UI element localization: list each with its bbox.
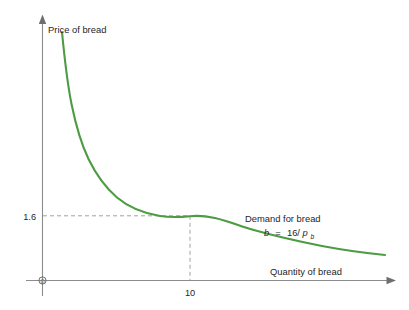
x-tick-label-10: 10 xyxy=(185,288,195,298)
equation-lhs-b: b xyxy=(264,227,269,238)
equation-denominator-p: p xyxy=(302,227,308,238)
legend-title-demand-for-bread: Demand for bread xyxy=(245,213,321,224)
axes-group xyxy=(26,15,396,297)
demand-curve-group xyxy=(62,32,385,255)
x-axis-arrowhead xyxy=(387,277,397,284)
y-tick-label-1-6: 1.6 xyxy=(23,212,36,222)
chart-canvas: Price of bread Quantity of bread 1.6 10 … xyxy=(0,0,409,310)
equation-subscript-b: b xyxy=(310,233,314,240)
demand-curve-path xyxy=(62,32,385,255)
y-axis-title: Price of bread xyxy=(48,24,106,35)
labels-group: Price of bread Quantity of bread 1.6 10 … xyxy=(23,24,342,298)
y-axis-arrowhead xyxy=(39,15,46,25)
x-axis-title: Quantity of bread xyxy=(270,266,342,277)
origin-label: 0 xyxy=(40,277,44,286)
curve-annotation-group: Demand for bread b = 16/ p b xyxy=(245,213,321,240)
equation-equals: = xyxy=(275,227,281,238)
equation-numerator: 16/ xyxy=(287,227,300,238)
legend-equation: b = 16/ p b xyxy=(264,227,314,240)
demand-curve-figure: Price of bread Quantity of bread 1.6 10 … xyxy=(0,0,409,310)
guide-lines-group xyxy=(43,216,190,280)
